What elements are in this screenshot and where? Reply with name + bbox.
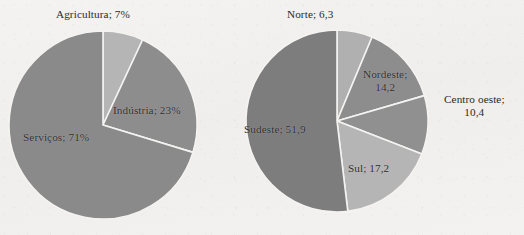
pie-slice-label-sul: Sul; 17,2 bbox=[348, 162, 389, 175]
pie-slice-label-norte: Norte; 6,3 bbox=[287, 8, 333, 21]
pie-slice-label-nordeste-line2: 14,2 bbox=[363, 81, 407, 94]
pie-slice-label-sudeste: Sudeste; 51,9 bbox=[244, 123, 306, 136]
pie-slice-label-centro-oeste-line1: Centro oeste; bbox=[444, 93, 505, 106]
figure-canvas: Agricultura; 7% Indústria; 23% Serviços;… bbox=[0, 0, 524, 235]
pie-slice-label-servicos: Serviços; 71% bbox=[23, 131, 89, 144]
pie-slice-label-industria: Indústria; 23% bbox=[113, 104, 181, 117]
pie-slice-label-agricultura: Agricultura; 7% bbox=[56, 8, 130, 21]
pie-slice-label-nordeste-line1: Nordeste; bbox=[363, 68, 407, 81]
pie-chart-regioes-brasil bbox=[246, 30, 428, 212]
pie-chart-setores-economia bbox=[9, 31, 197, 219]
pie-slice-label-nordeste: Nordeste; 14,2 bbox=[363, 68, 407, 95]
pie-slice-label-centro-oeste: Centro oeste; 10,4 bbox=[444, 93, 505, 120]
pie-slice-sudeste bbox=[246, 30, 348, 212]
pie-slice-label-centro-oeste-line2: 10,4 bbox=[444, 106, 505, 119]
